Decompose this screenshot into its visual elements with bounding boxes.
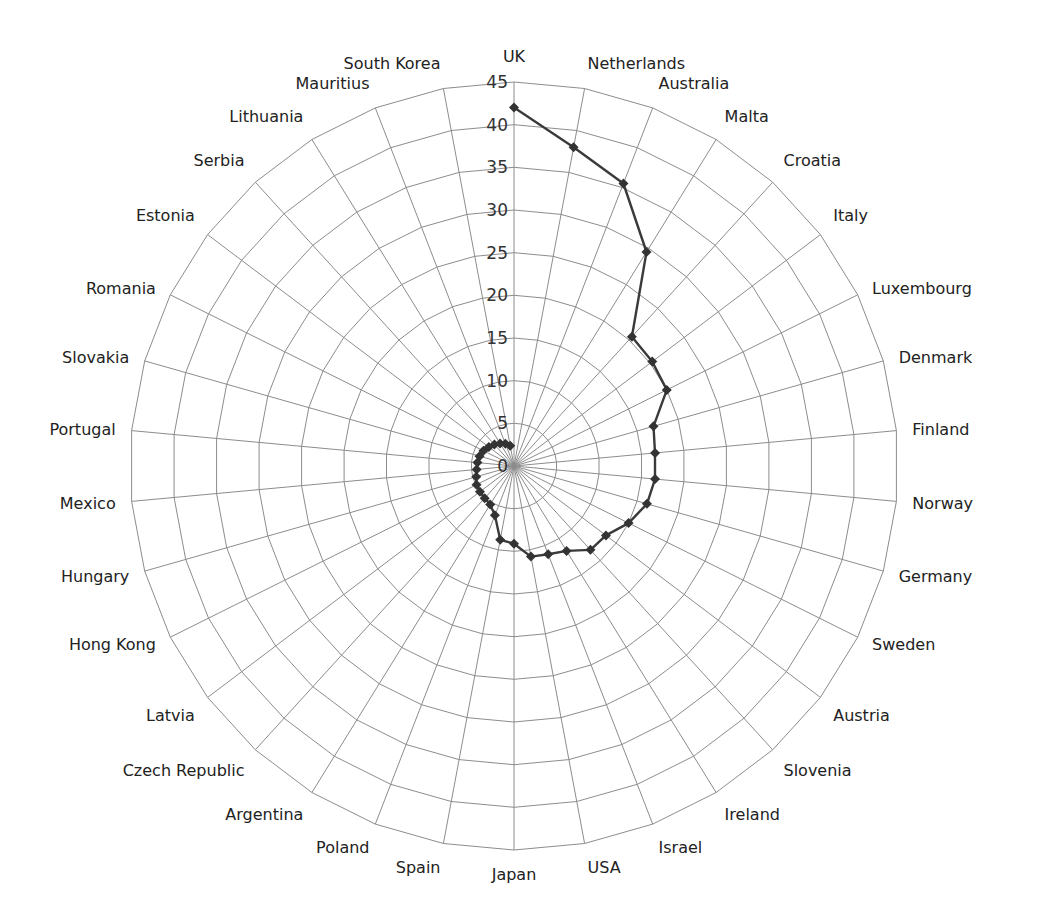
radar-chart-svg: 051015202530354045 UKNetherlandsAustrali… — [0, 0, 1037, 924]
spoke-hong-kong — [170, 466, 514, 637]
radar-spokes — [132, 82, 897, 850]
category-label-usa: USA — [588, 858, 621, 877]
radial-tick-label: 40 — [486, 115, 508, 135]
category-label-norway: Norway — [912, 494, 973, 513]
category-label-slovenia: Slovenia — [784, 761, 852, 780]
spoke-estonia — [208, 235, 514, 466]
radial-tick-label: 20 — [486, 285, 508, 305]
spoke-norway — [514, 466, 896, 501]
category-label-croatia: Croatia — [784, 151, 842, 170]
radial-tick-label: 10 — [486, 371, 508, 391]
category-label-serbia: Serbia — [194, 151, 245, 170]
spoke-austria — [514, 466, 820, 697]
spoke-czech-republic — [255, 466, 514, 750]
category-label-sweden: Sweden — [872, 635, 935, 654]
category-label-hong-kong: Hong Kong — [69, 635, 156, 654]
category-label-mexico: Mexico — [60, 494, 116, 513]
radial-tick-label: 30 — [486, 200, 508, 220]
category-label-south-korea: South Korea — [344, 54, 441, 73]
data-point-ireland — [562, 546, 572, 556]
category-label-czech-republic: Czech Republic — [123, 761, 245, 780]
category-label-poland: Poland — [316, 838, 369, 857]
radial-tick-label: 0 — [497, 456, 508, 476]
spoke-poland — [375, 466, 514, 824]
category-label-romania: Romania — [86, 279, 156, 298]
category-label-ireland: Ireland — [725, 805, 780, 824]
category-label-israel: Israel — [659, 838, 703, 857]
category-label-japan: Japan — [491, 865, 537, 884]
category-label-germany: Germany — [899, 567, 973, 586]
data-point-poland — [490, 510, 500, 520]
category-label-lithuania: Lithuania — [229, 107, 303, 126]
radial-tick-label: 15 — [486, 328, 508, 348]
spoke-luxembourg — [514, 295, 858, 466]
spoke-romania — [170, 295, 514, 466]
spoke-portugal — [132, 431, 514, 466]
data-point-denmark — [649, 421, 659, 431]
category-label-australia: Australia — [659, 74, 730, 93]
spoke-italy — [514, 235, 820, 466]
radial-axis-ticks: 051015202530354045 — [486, 72, 508, 476]
category-label-portugal: Portugal — [49, 420, 115, 439]
category-label-latvia: Latvia — [146, 706, 195, 725]
category-label-malta: Malta — [725, 107, 769, 126]
category-label-estonia: Estonia — [136, 206, 195, 225]
category-label-austria: Austria — [833, 706, 890, 725]
radial-tick-label: 35 — [486, 157, 508, 177]
spoke-mexico — [132, 466, 514, 501]
spoke-serbia — [255, 182, 514, 466]
category-label-mauritius: Mauritius — [296, 74, 370, 93]
spoke-latvia — [208, 466, 514, 697]
radial-tick-label: 5 — [497, 413, 508, 433]
category-label-hungary: Hungary — [61, 567, 129, 586]
category-label-italy: Italy — [833, 206, 868, 225]
radial-tick-label: 45 — [486, 72, 508, 92]
category-label-luxembourg: Luxembourg — [872, 279, 972, 298]
data-point-spain — [495, 535, 505, 545]
data-point-finland — [650, 448, 660, 458]
spoke-australia — [514, 108, 653, 466]
data-point-norway — [650, 474, 660, 484]
category-label-uk: UK — [503, 47, 526, 66]
category-label-slovakia: Slovakia — [62, 348, 129, 367]
category-label-argentina: Argentina — [225, 805, 303, 824]
category-label-denmark: Denmark — [899, 348, 973, 367]
radial-tick-label: 25 — [486, 243, 508, 263]
category-label-finland: Finland — [912, 420, 969, 439]
radar-chart: 051015202530354045 UKNetherlandsAustrali… — [0, 0, 1037, 924]
spoke-croatia — [514, 182, 773, 466]
spoke-finland — [514, 431, 896, 466]
data-point-luxembourg — [662, 385, 672, 395]
category-label-spain: Spain — [396, 858, 441, 877]
category-label-netherlands: Netherlands — [588, 54, 686, 73]
data-point-malta — [642, 247, 652, 257]
data-point-israel — [543, 549, 553, 559]
